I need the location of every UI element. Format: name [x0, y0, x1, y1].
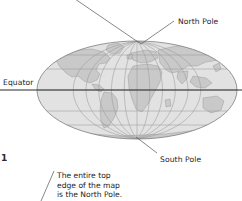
equator-label: Equator [3, 78, 34, 87]
land-madagascar [165, 99, 171, 107]
south-pole-label: South Pole [160, 155, 201, 164]
south-pole-leader-line [136, 137, 157, 153]
caption-leader-line [41, 171, 54, 201]
top-edge-leader-line [75, 0, 141, 44]
caption-line-3: is the North Pole. [57, 190, 122, 200]
figure-caption: The entire top edge of the map is the No… [57, 171, 122, 200]
caption-line-1: The entire top [57, 171, 122, 181]
north-pole-leader-line [141, 21, 174, 44]
north-pole-label: North Pole [178, 17, 218, 26]
world-map-figure: North Pole South Pole Equator The entire… [0, 0, 242, 201]
figure-number-fragment: 1 [1, 153, 7, 164]
caption-line-2: edge of the map [57, 181, 122, 191]
